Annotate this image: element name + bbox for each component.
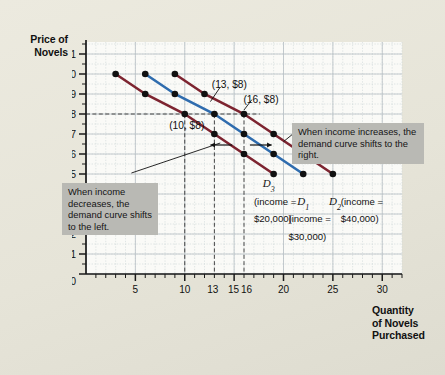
plot-area: $11109876543210510131516202530(10, $8)(1… (72, 38, 404, 296)
x-tick-label: 5 (133, 284, 139, 295)
data-point (241, 151, 248, 158)
x-axis-title-line2: of Novels (372, 317, 444, 330)
y-tick-label: 8 (72, 109, 76, 120)
data-point (142, 91, 149, 98)
curve-D3-income-line1: (income = (254, 196, 297, 207)
y-tick-label: 5 (72, 169, 76, 180)
data-point (241, 111, 248, 118)
data-point (112, 71, 119, 78)
x-tick-label: 13 (207, 284, 219, 295)
curve-D3-income-line2: $20,000) (254, 213, 292, 224)
data-point (270, 171, 277, 178)
data-point (172, 91, 179, 98)
callout-13-8: (13, $8) (212, 79, 247, 90)
callout-10-8: (10, $8) (169, 120, 204, 131)
data-point (172, 71, 179, 78)
y-tick-label: 6 (72, 149, 76, 160)
x-tick-label: 10 (179, 284, 191, 295)
x-axis-title-line3: Purchased (372, 329, 444, 342)
y-tick-label-zero: 0 (72, 276, 76, 287)
x-tick-label: 25 (327, 284, 339, 295)
data-point (270, 151, 277, 158)
note-income-decreases: When income decreases, the demand curve … (62, 183, 158, 235)
x-tick-label: 15 (228, 284, 240, 295)
y-tick-label: $11 (72, 49, 76, 60)
curve-D2-income-line2: $40,000) (341, 213, 379, 224)
y-tick-label: 7 (72, 129, 76, 140)
y-tick-label: 10 (72, 69, 76, 80)
y-tick-label: 1 (72, 249, 76, 260)
x-tick-label: 30 (377, 284, 389, 295)
data-point (201, 91, 208, 98)
curve-D1-income-line2: $30,000) (288, 231, 326, 242)
x-axis-title-line1: Quantity (372, 304, 444, 317)
x-tick-label: 20 (278, 284, 290, 295)
y-axis-title: Price of Novels (6, 33, 68, 58)
data-point (142, 71, 149, 78)
note-income-increases: When income increases, the demand curve … (292, 123, 424, 164)
curve-D1-income-line1: (income = (288, 213, 331, 224)
data-point (270, 131, 277, 138)
data-point (181, 111, 188, 118)
curve-D2-income-line1: (income = (341, 196, 384, 207)
x-axis-title: Quantity of Novels Purchased (372, 304, 444, 342)
x-tick-label: 16 (241, 284, 253, 295)
demand-curve-chart: $11109876543210510131516202530(10, $8)(1… (72, 38, 404, 296)
data-point (330, 171, 337, 178)
y-axis-title-line1: Price of (6, 33, 68, 46)
y-axis-title-line2: Novels (6, 46, 68, 59)
data-point (211, 111, 218, 118)
data-point (241, 131, 248, 138)
data-point (211, 131, 218, 138)
data-point (300, 171, 307, 178)
figure-panel: Price of Novels Quantity of Novels Purch… (0, 0, 445, 375)
y-tick-label: 9 (72, 89, 76, 100)
